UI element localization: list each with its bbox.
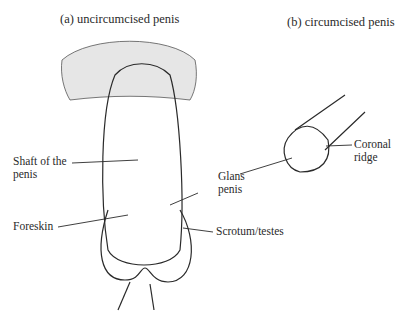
panel-b-title: (b) circumcised penis	[287, 15, 395, 30]
panel-b-drawing	[284, 95, 365, 172]
label-glans: Glans penis	[218, 170, 245, 196]
leader-lines	[58, 145, 352, 232]
label-coronal-ridge: Coronal ridge	[354, 138, 391, 164]
panel-a-drawing	[61, 41, 196, 310]
label-foreskin: Foreskin	[13, 220, 53, 233]
label-scrotum: Scrotum/testes	[216, 225, 284, 238]
panel-a-title: (a) uncircumcised penis	[60, 12, 179, 27]
label-shaft: Shaft of the penis	[13, 155, 67, 181]
